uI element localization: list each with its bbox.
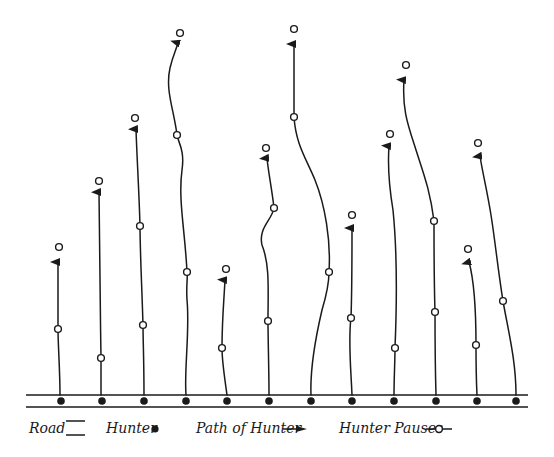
legend-path-label: Path of Hunter (195, 420, 302, 436)
end-pause-marker (56, 244, 63, 251)
hunter-dot (140, 397, 148, 405)
pause-marker (137, 223, 144, 230)
hunter-dot (98, 397, 106, 405)
end-pause-marker (291, 26, 298, 33)
pause-marker (140, 322, 147, 329)
path-line (99, 192, 101, 395)
pause-marker (348, 315, 355, 322)
road-legend-icon (66, 421, 85, 435)
hunter-path-10 (403, 62, 439, 395)
path-line (169, 43, 188, 395)
path-line (136, 129, 144, 395)
end-pause-marker (403, 62, 410, 69)
legend-hunter-label: Hunter (105, 420, 158, 436)
hunter-path-6 (261, 145, 277, 395)
end-pause-marker (349, 212, 356, 219)
pause-marker (326, 269, 333, 276)
legend-road-label: Road (28, 420, 65, 436)
path-line (350, 228, 352, 395)
hunter-dot (512, 397, 520, 405)
end-pause-marker (465, 246, 472, 253)
pause-marker (432, 309, 439, 316)
hunter-path-7 (291, 26, 333, 395)
pause-marker (219, 345, 226, 352)
hunter-paths-diagram: Road Hunter Path of Hunter Hunter Pauses (0, 0, 554, 457)
end-pause-marker (475, 140, 482, 147)
end-pause-marker (223, 266, 230, 273)
hunter-path-2 (96, 178, 105, 395)
legend: Road Hunter Path of Hunter Hunter Pauses (28, 420, 452, 436)
path-line (294, 44, 329, 395)
hunter-dot (265, 397, 273, 405)
pause-marker (55, 326, 62, 333)
end-pause-marker (177, 30, 184, 37)
path-line (222, 280, 227, 395)
end-pause-marker (263, 145, 270, 152)
hunter-path-3 (132, 115, 147, 395)
pause-marker (174, 132, 181, 139)
end-pause-marker (96, 178, 103, 185)
hunter-path-4 (169, 30, 191, 395)
hunter-dot (57, 397, 65, 405)
pause-marker (473, 342, 480, 349)
hunter-dot (390, 397, 398, 405)
path-line (404, 80, 436, 395)
pause-marker (500, 298, 507, 305)
legend-pauses-label: Hunter Pauses (338, 420, 443, 436)
hunter-path-5 (219, 266, 230, 395)
hunter-path-8 (348, 212, 356, 395)
hunter-dot (473, 397, 481, 405)
hunter-legend-icon (151, 425, 158, 432)
hunter-path-9 (387, 131, 399, 395)
end-pause-marker (387, 131, 394, 138)
pause-marker (98, 355, 105, 362)
hunter-dot (307, 397, 315, 405)
path-line (261, 158, 274, 395)
path-line (388, 146, 396, 395)
end-pause-marker (132, 115, 139, 122)
hunter-dot (223, 397, 231, 405)
path-line (469, 262, 477, 395)
hunter-dots (57, 397, 520, 405)
pause-marker (184, 269, 191, 276)
hunter-dot (432, 397, 440, 405)
pause-marker (265, 318, 272, 325)
hunter-dot (182, 397, 190, 405)
hunter-path-11 (465, 246, 480, 395)
hunter-dot (348, 397, 356, 405)
pause-marker (291, 114, 298, 121)
pause-marker (431, 218, 438, 225)
hunter-paths (55, 26, 516, 395)
hunter-path-12 (475, 140, 516, 395)
path-line (480, 156, 516, 395)
pause-marker (271, 205, 278, 212)
hunter-path-1 (55, 244, 63, 395)
pause-marker (392, 345, 399, 352)
